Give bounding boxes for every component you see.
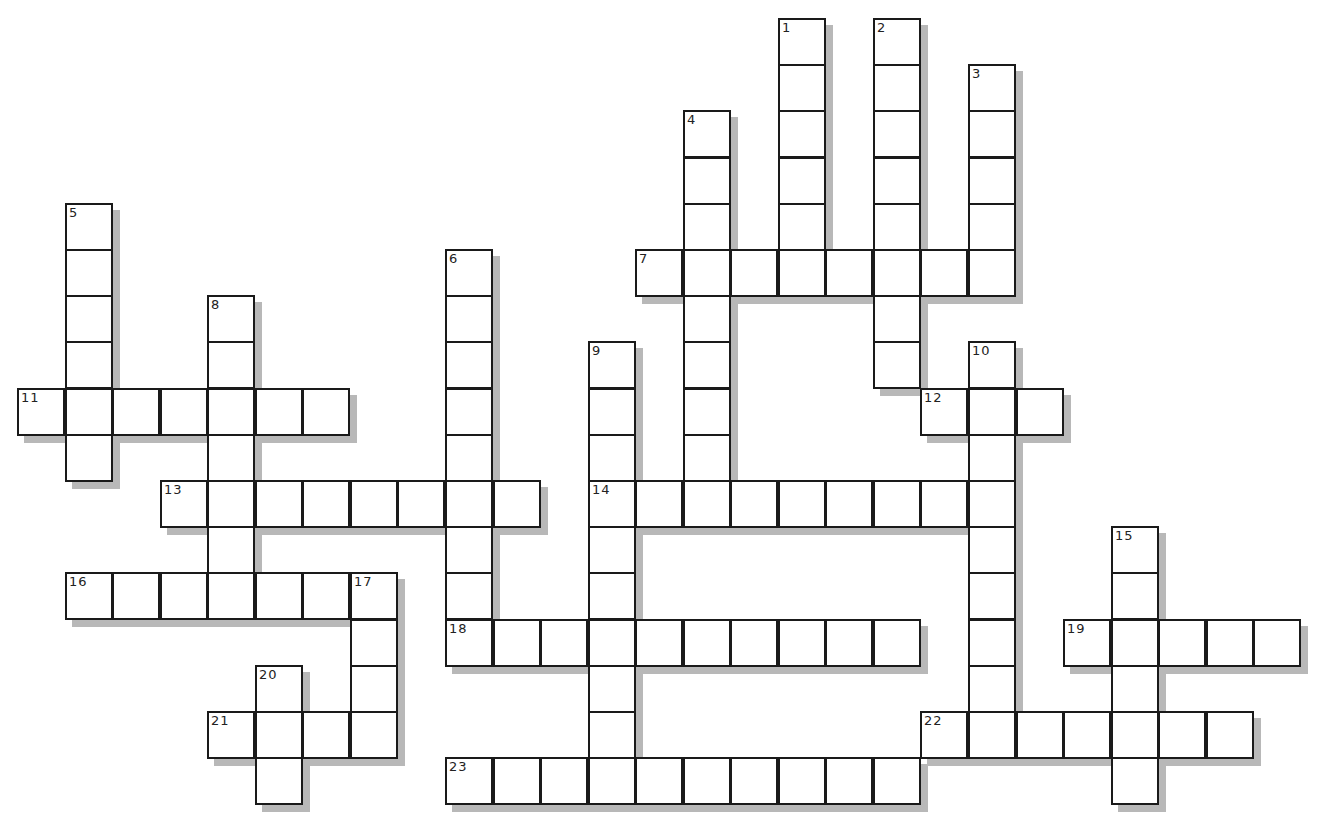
crossword-cell[interactable] [65,388,113,436]
crossword-cell[interactable] [445,526,493,574]
crossword-cell[interactable] [255,480,303,528]
crossword-cell[interactable]: 19 [1063,619,1111,667]
crossword-cell[interactable] [445,341,493,389]
crossword-cell[interactable] [112,388,160,436]
crossword-cell[interactable] [635,480,683,528]
crossword-cell[interactable] [968,434,1016,482]
crossword-cell[interactable] [968,665,1016,713]
crossword-cell[interactable]: 17 [350,572,398,620]
crossword-cell[interactable] [445,434,493,482]
crossword-cell[interactable]: 4 [683,110,731,158]
crossword-cell[interactable]: 11 [17,388,65,436]
crossword-cell[interactable] [255,572,303,620]
crossword-cell[interactable] [540,619,588,667]
crossword-cell[interactable] [968,388,1016,436]
crossword-cell[interactable]: 6 [445,249,493,297]
crossword-cell[interactable]: 13 [160,480,208,528]
crossword-cell[interactable] [1111,665,1159,713]
crossword-cell[interactable] [302,388,350,436]
crossword-cell[interactable] [1016,711,1064,759]
crossword-cell[interactable] [207,572,255,620]
crossword-cell[interactable]: 10 [968,341,1016,389]
crossword-cell[interactable] [302,480,350,528]
crossword-cell[interactable]: 3 [968,64,1016,112]
crossword-cell[interactable] [207,526,255,574]
crossword-cell[interactable]: 22 [920,711,968,759]
crossword-cell[interactable] [683,203,731,251]
crossword-cell[interactable] [588,526,636,574]
crossword-cell[interactable] [968,203,1016,251]
crossword-cell[interactable] [207,434,255,482]
crossword-cell[interactable] [493,757,541,805]
crossword-cell[interactable] [873,341,921,389]
crossword-cell[interactable] [635,757,683,805]
crossword-cell[interactable] [588,757,636,805]
crossword-cell[interactable]: 21 [207,711,255,759]
crossword-cell[interactable]: 14 [588,480,636,528]
crossword-cell[interactable] [968,711,1016,759]
crossword-cell[interactable] [350,665,398,713]
crossword-cell[interactable] [873,757,921,805]
crossword-cell[interactable] [873,619,921,667]
crossword-cell[interactable]: 1 [778,18,826,66]
crossword-cell[interactable]: 20 [255,665,303,713]
crossword-cell[interactable] [65,249,113,297]
crossword-cell[interactable] [683,295,731,343]
crossword-cell[interactable] [683,341,731,389]
crossword-cell[interactable] [683,480,731,528]
crossword-cell[interactable]: 23 [445,757,493,805]
crossword-cell[interactable] [778,757,826,805]
crossword-cell[interactable]: 7 [635,249,683,297]
crossword-cell[interactable]: 16 [65,572,113,620]
crossword-cell[interactable] [683,619,731,667]
crossword-cell[interactable] [445,572,493,620]
crossword-cell[interactable] [588,711,636,759]
crossword-cell[interactable] [1016,388,1064,436]
crossword-cell[interactable] [445,388,493,436]
crossword-cell[interactable] [778,64,826,112]
crossword-cell[interactable] [968,526,1016,574]
crossword-cell[interactable] [302,572,350,620]
crossword-cell[interactable] [730,249,778,297]
crossword-cell[interactable] [1111,619,1159,667]
crossword-cell[interactable] [778,249,826,297]
crossword-cell[interactable] [873,295,921,343]
crossword-cell[interactable] [778,203,826,251]
crossword-cell[interactable] [207,388,255,436]
crossword-cell[interactable] [968,619,1016,667]
crossword-cell[interactable]: 8 [207,295,255,343]
crossword-cell[interactable] [1206,711,1254,759]
crossword-cell[interactable] [1111,711,1159,759]
crossword-cell[interactable] [255,711,303,759]
crossword-cell[interactable] [683,757,731,805]
crossword-cell[interactable] [778,157,826,205]
crossword-cell[interactable] [1111,757,1159,805]
crossword-cell[interactable]: 18 [445,619,493,667]
crossword-cell[interactable] [588,665,636,713]
crossword-cell[interactable] [968,480,1016,528]
crossword-cell[interactable] [873,64,921,112]
crossword-cell[interactable] [588,619,636,667]
crossword-cell[interactable] [65,341,113,389]
crossword-cell[interactable] [1063,711,1111,759]
crossword-cell[interactable] [65,295,113,343]
crossword-cell[interactable] [588,388,636,436]
crossword-cell[interactable] [112,572,160,620]
crossword-cell[interactable]: 5 [65,203,113,251]
crossword-cell[interactable] [825,757,873,805]
crossword-cell[interactable] [1158,619,1206,667]
crossword-cell[interactable] [207,341,255,389]
crossword-cell[interactable] [968,157,1016,205]
crossword-cell[interactable] [968,249,1016,297]
crossword-cell[interactable] [730,757,778,805]
crossword-cell[interactable] [873,249,921,297]
crossword-cell[interactable] [397,480,445,528]
crossword-cell[interactable] [255,757,303,805]
crossword-cell[interactable] [778,110,826,158]
crossword-cell[interactable] [1158,711,1206,759]
crossword-cell[interactable] [350,619,398,667]
crossword-cell[interactable] [350,711,398,759]
crossword-cell[interactable] [920,249,968,297]
crossword-cell[interactable] [1111,572,1159,620]
crossword-cell[interactable]: 12 [920,388,968,436]
